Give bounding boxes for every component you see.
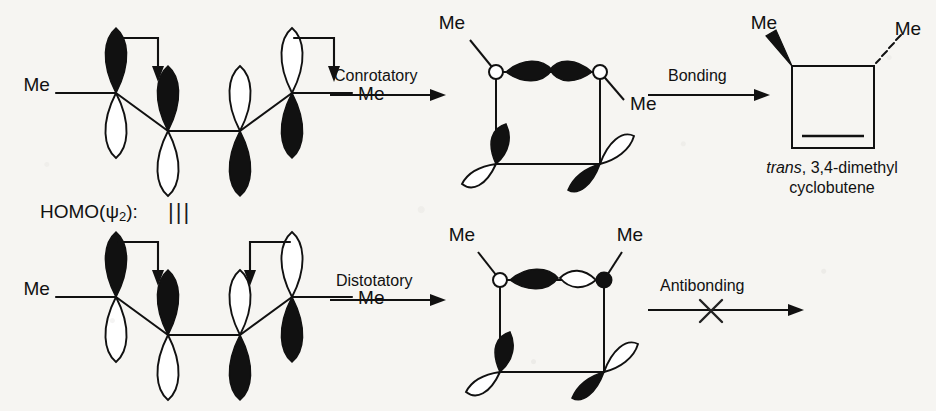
me-label-wedge: Me	[751, 13, 778, 32]
product-caption-line2: cyclobutene	[766, 178, 898, 198]
diagram-canvas: Me Me HOMO(ψ2): ||| Me Me	[0, 0, 936, 411]
product-caption-rest: , 3,4-dimethyl	[802, 159, 898, 176]
wedge-bond	[766, 30, 792, 66]
product-structure	[0, 0, 936, 411]
dashed-bond	[876, 35, 901, 63]
product-caption: trans, 3,4-dimethyl cyclobutene	[766, 158, 898, 198]
me-label-dash: Me	[895, 19, 922, 38]
product-caption-line1: trans, 3,4-dimethyl	[766, 158, 898, 178]
product-caption-italic: trans	[766, 159, 802, 176]
